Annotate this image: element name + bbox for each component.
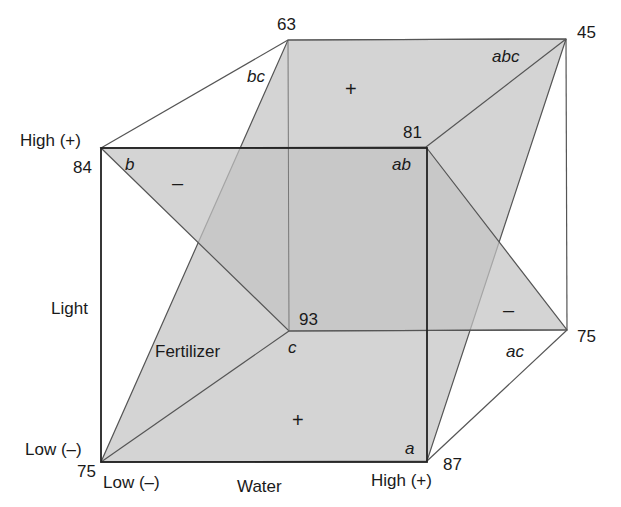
plane-sign-top-plus: + <box>345 78 357 100</box>
vertex-value-abc: 45 <box>577 23 596 42</box>
vertex-value-bc: 63 <box>277 15 296 34</box>
plane-sign-right-minus: – <box>503 299 515 321</box>
vertex-value-c: 93 <box>299 310 318 329</box>
treatment-label-b: b <box>125 155 134 174</box>
vertex-value-b: 84 <box>73 158 92 177</box>
treatment-label-abc: abc <box>492 47 520 66</box>
factorial-cube-diagram: + + – – 63 45 81 84 93 75 75 87 bc abc a… <box>0 0 621 507</box>
light-low-label: Low (–) <box>25 440 82 459</box>
cube-svg: + + – – 63 45 81 84 93 75 75 87 bc abc a… <box>0 0 621 507</box>
treatment-label-c: c <box>288 338 297 357</box>
light-high-label: High (+) <box>20 131 81 150</box>
light-axis-label: Light <box>51 299 88 318</box>
vertex-value-one: 75 <box>77 462 96 481</box>
plane-sign-bottom-plus: + <box>292 409 304 431</box>
water-low-label: Low (–) <box>103 473 160 492</box>
back-right-vertical-edge <box>566 39 567 330</box>
water-axis-label: Water <box>237 477 282 496</box>
water-high-label: High (+) <box>371 471 432 490</box>
vertex-value-ab: 81 <box>403 123 422 142</box>
treatment-label-bc: bc <box>247 67 265 86</box>
fertilizer-axis-label: Fertilizer <box>155 342 221 361</box>
vertex-value-ac: 75 <box>577 327 596 346</box>
vertex-value-a: 87 <box>443 455 462 474</box>
treatment-label-ab: ab <box>392 155 411 174</box>
plane-sign-left-minus: – <box>172 172 184 194</box>
treatment-label-ac: ac <box>506 342 524 361</box>
treatment-label-a: a <box>405 439 414 458</box>
